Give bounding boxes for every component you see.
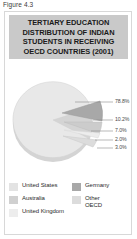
legend-item-australia: Australia [9,195,71,204]
pie-value-label-germany: 10.2% [115,116,129,122]
legend-swatch-germany [72,183,81,191]
pie-chart-svg [5,60,132,178]
chart-title-line-2: DISTRIBUTION OF INDIAN [15,28,122,38]
legend-column-left: United States Australia United Kingdom [9,182,71,221]
legend-item-other-oecd: Other OECD [72,195,121,209]
pie-value-label-united-states: 78.8% [115,98,129,104]
chart-title-line-3: STUDENTS IN RECEIVING [15,37,122,47]
legend-swatch-united-kingdom [9,209,18,217]
pie-value-label-united-kingdom: 2.0% [115,136,126,142]
pie-value-label-other-oecd: 3.0% [115,144,126,150]
chart-title-line-4: OECD COUNTRIES (2001) [15,47,122,57]
legend-item-united-kingdom: United Kingdom [9,208,71,217]
chart-title-band: TERTIARY EDUCATION DISTRIBUTION OF INDIA… [9,15,128,59]
legend-label-other-oecd: Other OECD [85,195,117,209]
legend-label-germany: Germany [85,182,109,189]
legend-swatch-united-states [9,183,18,191]
pie-chart-plot-area: 78.8% 10.2% 7.0% 2.0% 3.0% [5,60,132,178]
legend-item-germany: Germany [72,182,121,191]
chart-title-line-1: TERTIARY EDUCATION [15,18,122,28]
pie-value-label-australia: 7.0% [115,127,126,133]
legend-swatch-australia [9,196,18,204]
legend-label-united-states: United States [22,182,57,189]
legend-column-right: Germany Other OECD [72,182,121,213]
figure-container: Figure 4.3 TERTIARY EDUCATION DISTRIBUTI… [0,0,137,239]
legend-label-united-kingdom: United Kingdom [22,208,64,215]
figure-caption: Figure 4.3 [3,1,33,8]
legend-label-australia: Australia [22,195,45,202]
legend-item-united-states: United States [9,182,71,191]
legend-swatch-other-oecd [72,196,81,204]
